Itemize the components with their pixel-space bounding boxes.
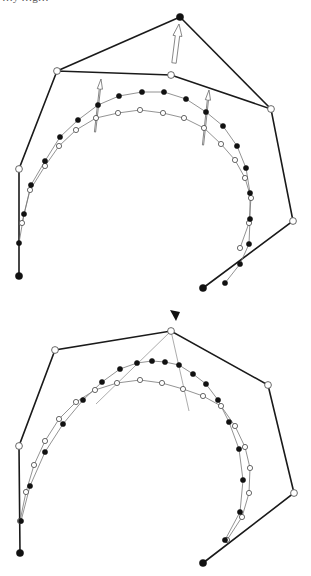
control-point	[16, 443, 23, 450]
diagram-canvas	[0, 0, 311, 576]
curve-points	[17, 358, 252, 542]
control-point	[168, 328, 175, 335]
old-curve-point	[159, 380, 164, 385]
control-point	[265, 382, 272, 389]
old-curve-point	[181, 115, 186, 120]
old-curve-point	[200, 393, 205, 398]
old-curve-point	[73, 127, 78, 132]
new-curve-point	[243, 165, 248, 170]
old-curve-point	[137, 377, 142, 382]
new-curve-point	[215, 397, 220, 402]
old-curve-point	[92, 387, 97, 392]
old-curve-point	[180, 386, 185, 391]
control-point-end	[15, 272, 22, 279]
up-arrow-icon	[202, 90, 210, 145]
new-curve-point	[246, 241, 251, 246]
control-polygon-old	[19, 71, 293, 288]
guide-line	[171, 331, 189, 411]
moved-control-point	[176, 13, 183, 20]
old-curve	[20, 380, 250, 540]
control-point	[54, 68, 61, 75]
displacement-arrows	[94, 24, 210, 145]
old-curve-point	[242, 444, 247, 449]
old-curve	[22, 110, 251, 248]
old-curve-point	[248, 195, 253, 200]
old-curve-point	[27, 187, 32, 192]
old-curve-point	[42, 438, 47, 443]
new-curve-point	[99, 379, 104, 384]
old-curve-point	[115, 110, 120, 115]
new-curve-point	[57, 134, 62, 139]
new-curve-point	[237, 509, 242, 514]
new-curve-point	[203, 381, 208, 386]
new-curve-point	[80, 397, 85, 402]
old-curve-point	[114, 380, 119, 385]
old-curve-point	[73, 399, 78, 404]
old-curve-point	[239, 514, 244, 519]
new-curve-point	[247, 190, 252, 195]
new-curve-point	[21, 211, 26, 216]
old-curve-point	[160, 110, 165, 115]
new-curve-point	[134, 360, 139, 365]
old-curve-point	[237, 245, 242, 250]
new-curve-point	[116, 93, 121, 98]
new-curve-point	[28, 182, 33, 187]
new-curve-point	[247, 216, 252, 221]
old-curve-point	[246, 490, 251, 495]
old-curve-point	[56, 143, 61, 148]
old-curve-point	[232, 423, 237, 428]
old-curve-point	[137, 107, 142, 112]
control-point-end	[199, 559, 206, 566]
control-points	[16, 328, 298, 567]
moved-edge	[57, 17, 180, 71]
new-curve-point	[42, 158, 47, 163]
old-curve-point	[93, 115, 98, 120]
new-curve-point	[190, 371, 195, 376]
new-curve-point	[183, 96, 188, 101]
control-polygon	[19, 331, 294, 563]
new-curve-point	[117, 366, 122, 371]
old-curve-point	[242, 175, 247, 180]
old-curve-point	[42, 163, 47, 168]
old-curve-point	[247, 465, 252, 470]
curve-points	[16, 89, 253, 285]
new-curve-point	[139, 89, 144, 94]
control-point	[290, 218, 297, 225]
new-curve-point	[18, 518, 23, 523]
new-curve	[19, 92, 250, 283]
new-curve-point	[42, 449, 47, 454]
new-curve	[21, 361, 243, 540]
control-point	[52, 347, 59, 354]
new-curve-point	[27, 483, 32, 488]
bottom-diagram	[16, 310, 298, 567]
old-curve-point	[56, 416, 61, 421]
old-curve-point	[201, 125, 206, 130]
moved-control-edges	[57, 17, 271, 109]
control-point-end	[199, 284, 206, 291]
old-curve-point	[218, 141, 223, 146]
control-point	[291, 490, 298, 497]
new-curve-point	[220, 123, 225, 128]
new-curve-point	[161, 89, 166, 94]
control-point	[168, 72, 175, 79]
control-point	[268, 106, 275, 113]
control-point	[16, 166, 23, 173]
old-curve-point	[31, 462, 36, 467]
new-curve-point	[237, 261, 242, 266]
new-curve-point	[222, 537, 227, 542]
up-arrow-icon	[172, 24, 182, 63]
old-curve-point	[23, 489, 28, 494]
moved-edge	[180, 17, 271, 109]
new-curve-point	[176, 362, 181, 367]
control-point-end	[16, 549, 23, 556]
new-curve-point	[149, 358, 154, 363]
new-curve-point	[240, 477, 245, 482]
new-curve-point	[222, 280, 227, 285]
new-curve-point	[60, 421, 65, 426]
new-curve-point	[95, 102, 100, 107]
new-curve-point	[75, 117, 80, 122]
old-curve-point	[232, 157, 237, 162]
new-curve-point	[16, 240, 21, 245]
new-curve-point	[236, 446, 241, 451]
guide-lines	[96, 331, 189, 411]
